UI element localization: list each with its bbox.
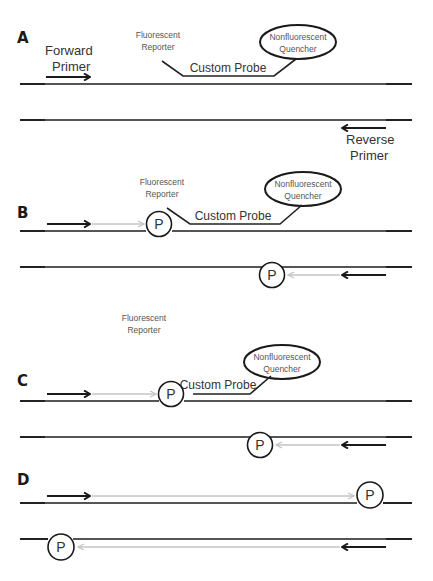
forward-primer-label-line2: Primer — [52, 59, 91, 74]
polymerase-label: P — [255, 437, 264, 453]
panel-label-a: A — [17, 29, 29, 47]
quencher-label-line2: Quencher — [279, 44, 316, 54]
quencher-label-line2: Quencher — [263, 364, 300, 374]
panel-b: B Fluorescent Reporter Nonfluorescent Qu… — [17, 172, 412, 288]
released-reporter-label-line1: Fluorescent — [122, 313, 167, 323]
panel-c: Fluorescent Reporter C Nonfluorescent Qu… — [17, 313, 412, 458]
custom-probe-label: Custom Probe — [180, 378, 257, 392]
quencher-label-line1: Nonfluorescent — [269, 32, 327, 42]
panel-label-d: D — [17, 471, 29, 489]
reverse-primer-label-line2: Primer — [350, 148, 389, 163]
reporter-label-line1: Fluorescent — [136, 30, 181, 40]
polymerase-label: P — [267, 267, 276, 283]
panel-label-c: C — [17, 372, 28, 390]
reverse-primer-label-line1: Reverse — [346, 132, 394, 147]
forward-primer-label-line1: Forward — [45, 43, 93, 58]
quencher-label-line2: Quencher — [284, 191, 321, 201]
reporter-label-line2: Reporter — [141, 42, 174, 52]
polymerase-label: P — [365, 487, 374, 503]
polymerase-label: P — [154, 216, 163, 232]
panel-d: D P P — [17, 471, 412, 560]
polymerase-label: P — [56, 539, 65, 555]
polymerase-label: P — [166, 386, 175, 402]
panel-label-b: B — [17, 204, 28, 222]
quencher-label-line1: Nonfluorescent — [274, 179, 332, 189]
taqman-pcr-diagram: A Forward Primer Fluorescent Reporter Cu… — [0, 0, 433, 581]
released-reporter-label-line2: Reporter — [127, 325, 160, 335]
panel-a: A Forward Primer Fluorescent Reporter Cu… — [17, 25, 412, 163]
reporter-label-line1: Fluorescent — [140, 177, 185, 187]
reporter-label-line2: Reporter — [145, 189, 178, 199]
custom-probe-label: Custom Probe — [190, 61, 267, 75]
quencher-label-line1: Nonfluorescent — [253, 352, 311, 362]
custom-probe-label: Custom Probe — [195, 209, 272, 223]
